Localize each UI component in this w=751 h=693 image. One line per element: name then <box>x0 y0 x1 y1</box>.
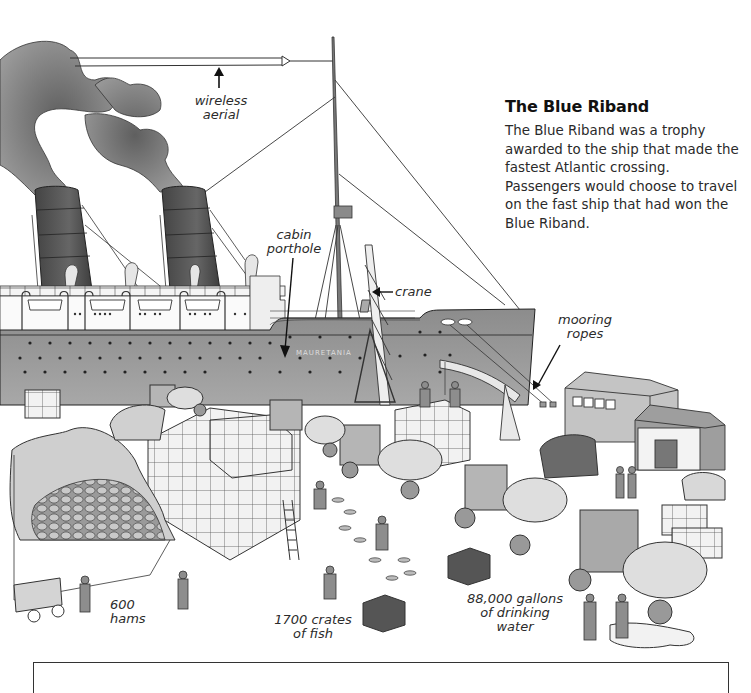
mooring-arrow <box>533 345 560 390</box>
bow-railing <box>270 311 415 318</box>
label-water: 88,000 gallons of drinking water <box>460 592 570 634</box>
label-line: 88,000 gallons <box>460 592 570 606</box>
sidebar-body: The Blue Riband was a trophy awarded to … <box>505 122 740 234</box>
caption-box-border <box>33 662 729 693</box>
ship-name: MAURETANIA <box>296 349 352 357</box>
sidebar-title: The Blue Riband <box>505 97 740 116</box>
label-line: of drinking <box>460 606 570 620</box>
label-fish: 1700 crates of fish <box>268 613 358 641</box>
label-line: 600 <box>110 598 160 612</box>
warehouse-small <box>635 405 725 470</box>
label-line: aerial <box>186 108 256 122</box>
ham-cart <box>14 578 64 622</box>
label-line: hams <box>110 612 160 626</box>
tanker-truck <box>455 465 567 555</box>
loose-fish <box>332 498 416 580</box>
label-line: cabin <box>262 228 326 242</box>
blue-riband-sidebar: The Blue Riband The Blue Riband was a tr… <box>505 97 740 234</box>
ventilators <box>65 255 258 290</box>
label-line: wireless <box>186 94 256 108</box>
label-line: water <box>460 620 570 634</box>
label-cabin-porthole: cabin porthole <box>262 228 326 256</box>
label-line: porthole <box>262 242 326 256</box>
funnel-rear <box>32 186 165 290</box>
label-wireless-aerial: wireless aerial <box>186 94 256 122</box>
label-line: 1700 crates <box>268 613 358 627</box>
label-line: ropes <box>550 327 620 341</box>
wireless-aerial <box>70 56 333 66</box>
label-line: crane <box>395 284 432 299</box>
label-mooring-ropes: mooring ropes <box>550 313 620 341</box>
label-line: mooring <box>550 313 620 327</box>
label-crane: crane <box>395 285 445 299</box>
label-line: of fish <box>268 627 358 641</box>
funnel-front <box>160 186 250 290</box>
label-hams: 600 hams <box>110 598 160 626</box>
aerial-arrow <box>214 67 224 88</box>
